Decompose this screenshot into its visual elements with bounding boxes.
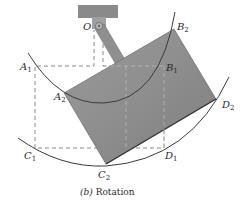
label-B2: B2 [176,21,189,34]
label-O: O [83,21,91,32]
figure-caption: (b) Rotation [80,187,135,197]
label-D1: D1 [164,150,178,163]
label-D2: D2 [221,99,235,112]
rotation-diagram: O A1 B1 C1 D1 A2 B2 C2 D2 (b) Rotation [0,0,251,205]
label-A1: A1 [19,61,32,74]
fixed-support [78,5,118,18]
pivot-pin-center [98,25,100,27]
label-C2: C2 [98,169,110,182]
label-C1: C1 [24,150,36,163]
